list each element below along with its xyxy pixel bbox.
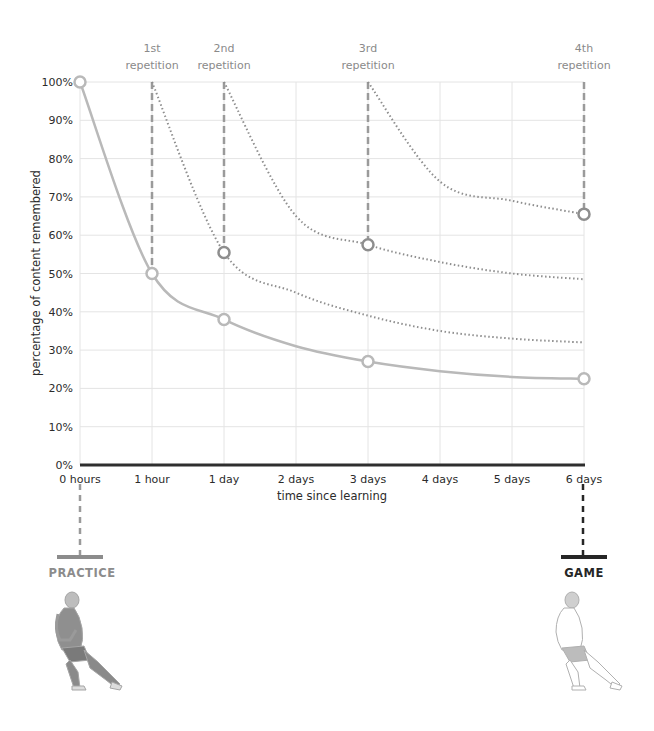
y-tick-label: 60% [49, 229, 73, 242]
y-axis-ticks: 0%10%20%30%40%50%60%70%80%90%100% [42, 76, 73, 472]
x-axis-ticks: 0 hours1 hour1 day2 days3 days4 days5 da… [59, 473, 602, 486]
data-point-marker [219, 314, 230, 325]
y-tick-label: 40% [49, 306, 73, 319]
forgetting-curve-chart: 0%10%20%30%40%50%60%70%80%90%100% 0 hour… [0, 0, 654, 731]
data-point-marker [579, 209, 590, 220]
repetition-label: repetition [197, 59, 250, 72]
x-tick-label: 1 day [209, 473, 240, 486]
y-tick-label: 0% [56, 459, 73, 472]
y-axis-title: percentage of content remembered [29, 170, 43, 376]
x-tick-label: 3 days [350, 473, 387, 486]
data-point-marker [363, 356, 374, 367]
repetition-label: repetition [341, 59, 394, 72]
practice-player-illustration [56, 592, 122, 690]
data-point-marker [147, 268, 158, 279]
y-tick-label: 50% [49, 268, 73, 281]
y-tick-label: 20% [49, 382, 73, 395]
game-player-illustration [556, 592, 622, 690]
y-tick-label: 80% [49, 153, 73, 166]
game-bar [561, 555, 607, 559]
y-tick-label: 100% [42, 76, 73, 89]
repetition-label: 3rd [359, 42, 377, 55]
y-tick-label: 30% [49, 344, 73, 357]
y-tick-label: 10% [49, 421, 73, 434]
repetition-curve-line [368, 82, 584, 214]
repetition-label: 2nd [214, 42, 235, 55]
x-tick-label: 2 days [278, 473, 315, 486]
y-tick-label: 90% [49, 114, 73, 127]
x-tick-label: 4 days [422, 473, 459, 486]
x-tick-label: 1 hour [134, 473, 170, 486]
x-tick-label: 5 days [494, 473, 531, 486]
repetition-label: repetition [557, 59, 610, 72]
data-point-marker [363, 239, 374, 250]
practice-bar [57, 555, 103, 559]
repetition-label: 1st [143, 42, 161, 55]
practice-label: PRACTICE [48, 566, 115, 580]
repetition-label: 4th [575, 42, 593, 55]
data-series [80, 82, 584, 379]
y-tick-label: 70% [49, 191, 73, 204]
x-axis-title: time since learning [277, 489, 387, 503]
data-point-marker [579, 373, 590, 384]
game-label: GAME [564, 566, 604, 580]
repetition-curve-line [224, 82, 584, 279]
data-point-marker [75, 77, 86, 88]
forgetting-curve-line [80, 82, 584, 379]
data-point-marker [219, 247, 230, 258]
repetition-labels: 1strepetition2ndrepetition3rdrepetition4… [125, 42, 610, 72]
repetition-label: repetition [125, 59, 178, 72]
